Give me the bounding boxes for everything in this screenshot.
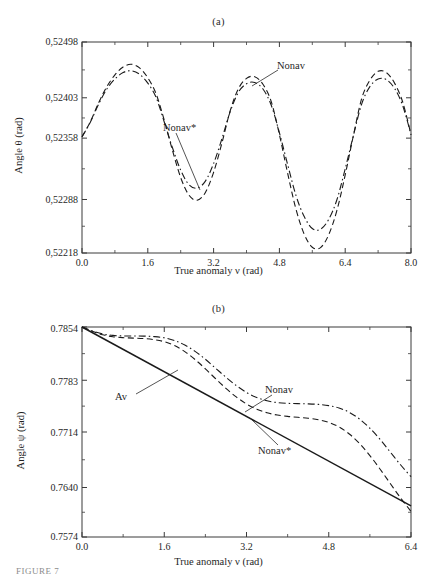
leader-av	[136, 370, 178, 394]
series-nonav-star	[82, 71, 411, 231]
figure-caption: FIGURE 7	[16, 566, 59, 576]
leader-nonav	[252, 70, 278, 86]
series-nonav	[82, 64, 411, 249]
panel-a-plot	[0, 0, 437, 290]
panel-b-plot	[0, 290, 437, 580]
series-av	[82, 327, 411, 506]
chart-panel-a: (a) Angle θ (rad) True anomaly ν (rad) 0…	[0, 0, 437, 290]
leader-nonav-star	[176, 133, 200, 190]
series-nonav	[82, 327, 411, 477]
chart-panel-b: (b) Angle ψ (rad) True anomaly ν (rad) 0…	[0, 290, 437, 580]
figure-root: (a) Angle θ (rad) True anomaly ν (rad) 0…	[0, 0, 437, 580]
